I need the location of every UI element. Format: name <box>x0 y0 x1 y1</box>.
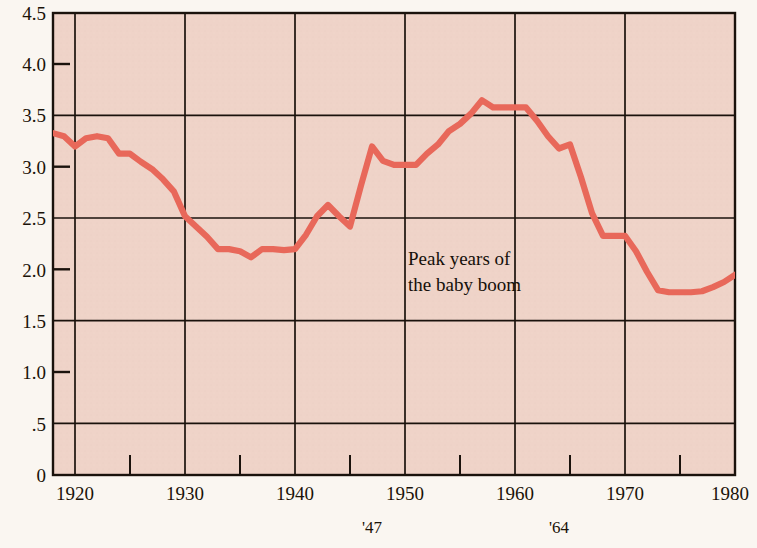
y-tick-label: 2.5 <box>22 208 46 229</box>
y-tick-label: 1.0 <box>22 362 46 383</box>
chart-svg: 4.5 4.0 3.5 3.0 2.5 2.0 1.5 1.0 .5 0 192… <box>0 0 757 548</box>
y-tick-label: 3.0 <box>22 157 46 178</box>
y-tick-label: 4.5 <box>22 3 46 24</box>
y-tick-label: 3.5 <box>22 105 46 126</box>
fertility-rate-chart: 4.5 4.0 3.5 3.0 2.5 2.0 1.5 1.0 .5 0 192… <box>0 0 757 548</box>
x-tick-label: 1940 <box>276 483 314 504</box>
callout-1947: '47 <box>362 518 383 537</box>
x-tick-label: 1950 <box>386 483 424 504</box>
callout-1964: '64 <box>549 518 570 537</box>
y-tick-label: 4.0 <box>22 54 46 75</box>
y-tick-label: .5 <box>32 414 46 435</box>
y-tick-label: 2.0 <box>22 260 46 281</box>
x-tick-label: 1930 <box>166 483 204 504</box>
x-tick-label: 1970 <box>606 483 644 504</box>
annotation-line-1: Peak years of <box>408 248 511 269</box>
y-tick-label: 1.5 <box>22 311 46 332</box>
annotation-line-2: the baby boom <box>408 274 521 295</box>
x-tick-label: 1980 <box>711 483 749 504</box>
x-tick-label: 1920 <box>56 483 94 504</box>
x-tick-label: 1960 <box>496 483 534 504</box>
y-tick-label: 0 <box>37 465 47 486</box>
